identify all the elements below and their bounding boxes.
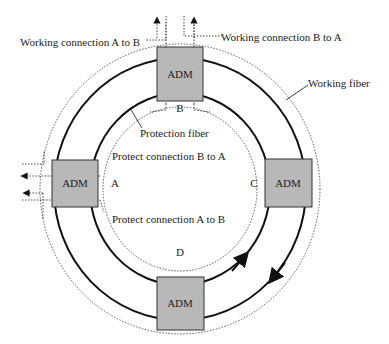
adm-label-c: ADM	[275, 177, 301, 189]
node-letter-a: A	[111, 177, 119, 189]
adm-label-b: ADM	[167, 68, 193, 80]
working-direction-arrow-icon	[273, 263, 285, 278]
protect-connection-b-to-a-label: Protect connection B to A	[112, 150, 226, 162]
node-letter-c: C	[250, 177, 257, 189]
adm-label-d: ADM	[167, 297, 193, 309]
ring-diagram: ADM ADM ADM ADM B A C D Working connecti…	[0, 0, 389, 344]
node-letter-d: D	[176, 246, 184, 258]
protect-connection-a-to-b-label: Protect connection A to B	[112, 213, 225, 225]
working-connection-b-to-a-label: Working connection B to A	[221, 31, 342, 43]
adm-label-a: ADM	[62, 177, 88, 189]
protection-fiber-label: Protection fiber	[140, 127, 209, 139]
adm-node-c: ADM	[265, 159, 312, 207]
protection-direction-arrow-icon	[232, 257, 244, 271]
adm-node-b: ADM	[157, 47, 203, 101]
adm-node-a: ADM	[52, 160, 98, 207]
node-letter-b: B	[176, 102, 183, 114]
working-connection-a-to-b-label: Working connection A to B	[20, 36, 140, 48]
adm-node-d: ADM	[157, 277, 204, 330]
working-fiber-label: Working fiber	[308, 77, 370, 89]
working-fiber-leader	[286, 85, 308, 100]
